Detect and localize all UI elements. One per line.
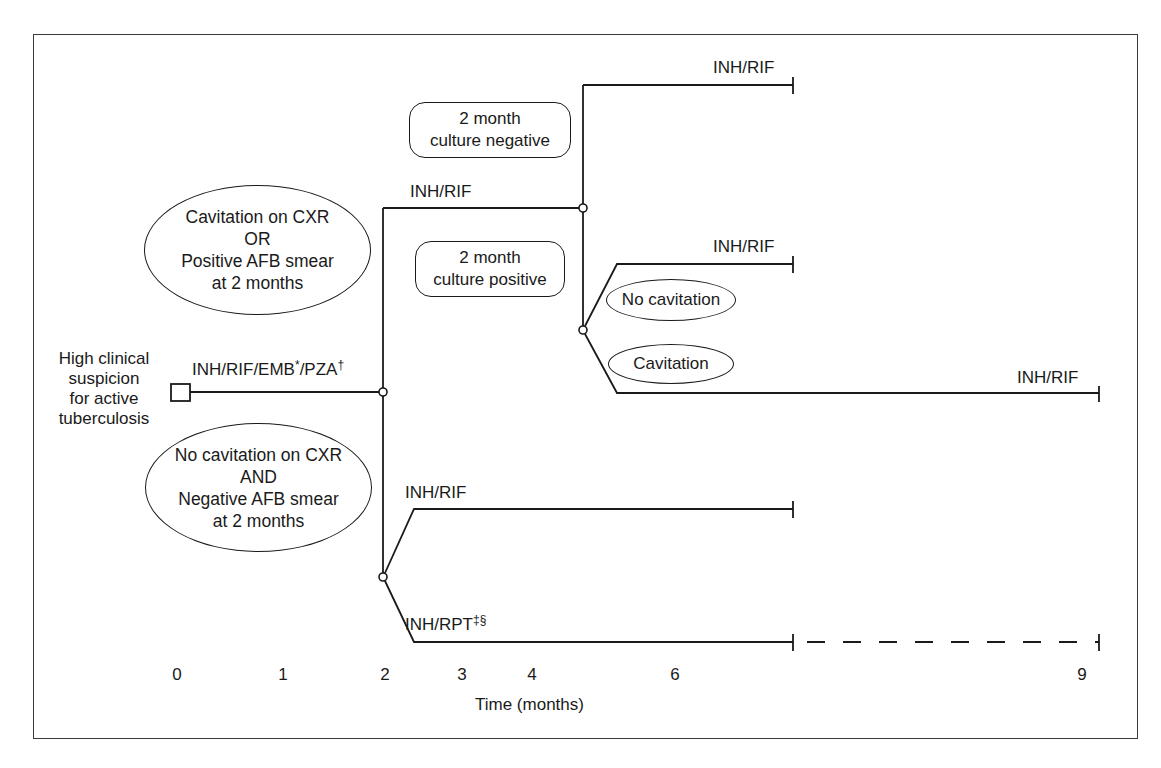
start-label-line: for active [42, 389, 166, 409]
condition-line: OR [181, 228, 334, 250]
condition-line: at 2 months [181, 272, 334, 294]
start-label-line: High clinical [42, 349, 166, 369]
axis-tick-4: 4 [522, 665, 542, 685]
upper-continuation-regimen: INH/RIF [410, 181, 471, 202]
lower-inh-rif-regimen: INH/RIF [405, 482, 466, 503]
culture-negative-regimen: INH/RIF [713, 57, 774, 78]
lower-inh-rpt-regimen: INH/RPT‡§ [405, 614, 486, 635]
axis-tick-9: 9 [1072, 665, 1092, 685]
start-label: High clinical suspicion for active tuber… [42, 349, 166, 429]
axis-tick-1: 1 [273, 665, 293, 685]
initial-regimen-label: INH/RIF/EMB*/PZA† [192, 359, 344, 380]
axis-title: Time (months) [475, 694, 584, 715]
timeline-diagram [0, 0, 1161, 768]
cavitation-or-positive-smear-ellipse: Cavitation on CXR OR Positive AFB smear … [144, 185, 371, 315]
condition-line: Positive AFB smear [181, 250, 334, 272]
condition-text: No cavitation [622, 289, 720, 311]
regimen-text: INH/RPT [405, 615, 473, 634]
no-cavitation-ellipse: No cavitation [606, 279, 736, 321]
culture-positive-box: 2 month culture positive [415, 241, 565, 297]
decision-node-month4-lower [579, 326, 587, 334]
no-cavitation-negative-smear-ellipse: No cavitation on CXR AND Negative AFB sm… [145, 423, 372, 552]
start-node-square [171, 384, 190, 401]
regimen-text: /PZA [300, 360, 338, 379]
condition-line: AND [175, 466, 342, 488]
footnote-mark: ‡§ [473, 613, 486, 627]
axis-tick-6: 6 [665, 665, 685, 685]
condition-text: Cavitation [633, 353, 709, 375]
footnote-mark: * [295, 358, 300, 372]
decision-node-month2 [379, 388, 387, 396]
condition-line: at 2 months [175, 510, 342, 532]
cavitation-regimen: INH/RIF [1017, 367, 1078, 388]
cavitation-ellipse: Cavitation [608, 344, 734, 384]
start-label-line: suspicion [42, 369, 166, 389]
condition-line: Cavitation on CXR [181, 206, 334, 228]
start-label-line: tuberculosis [42, 409, 166, 429]
condition-line: 2 month [433, 247, 546, 269]
condition-line: Negative AFB smear [175, 488, 342, 510]
no-cavitation-regimen: INH/RIF [713, 236, 774, 257]
lower-inh-rif-line [385, 509, 793, 573]
decision-node-month4-upper [579, 204, 587, 212]
regimen-text: INH/RIF/EMB [192, 360, 295, 379]
decision-node-month2-lower [379, 573, 387, 581]
condition-line: culture negative [430, 130, 550, 152]
condition-line: 2 month [430, 108, 550, 130]
condition-line: culture positive [433, 269, 546, 291]
axis-tick-3: 3 [452, 665, 472, 685]
footnote-mark: † [337, 358, 344, 372]
axis-tick-2: 2 [375, 665, 395, 685]
culture-negative-box: 2 month culture negative [409, 102, 571, 158]
condition-line: No cavitation on CXR [175, 444, 342, 466]
axis-tick-0: 0 [167, 665, 187, 685]
